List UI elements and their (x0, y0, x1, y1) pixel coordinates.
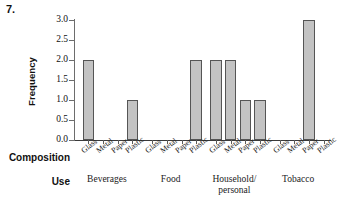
bar (127, 100, 138, 140)
y-tick-mark (69, 20, 75, 21)
use-group-label-line: Beverages (87, 174, 127, 184)
use-group-label-line: Food (161, 174, 181, 184)
y-tick-label: 2.0 (38, 55, 68, 65)
use-group-label: Household/personal (203, 174, 267, 196)
use-group-label: Tobacco (266, 174, 330, 185)
composition-label-plastic: Plastic (316, 136, 338, 155)
bar (83, 60, 94, 140)
y-tick-mark (69, 80, 75, 81)
bar (240, 100, 251, 140)
use-group-label: Food (139, 174, 203, 185)
y-tick-label: 0.5 (38, 115, 68, 125)
figure-container: 7. Frequency 0.00.51.01.52.02.53.0 Glass… (0, 0, 344, 208)
use-group-label-line: personal (218, 185, 250, 195)
y-tick-mark (69, 40, 75, 41)
bar (303, 20, 314, 140)
bar (225, 60, 236, 140)
y-tick-label: 2.5 (38, 35, 68, 45)
figure-number: 7. (6, 4, 15, 15)
use-group-label: Beverages (75, 174, 139, 185)
y-tick-mark (69, 120, 75, 121)
use-row-header: Use (0, 176, 70, 187)
y-tick-label: 1.0 (38, 95, 68, 105)
y-tick-label: 0.0 (38, 135, 68, 145)
y-tick-label: 3.0 (38, 15, 68, 25)
y-tick-mark (69, 60, 75, 61)
use-group-label-line: Tobacco (282, 174, 314, 184)
use-group-label-line: Household/ (212, 174, 256, 184)
y-tick-mark (69, 140, 75, 141)
y-tick-mark (69, 100, 75, 101)
y-tick-label: 1.5 (38, 75, 68, 85)
composition-row-header: Composition (0, 152, 70, 163)
bar (210, 60, 221, 140)
y-axis-title: Frequency (26, 42, 37, 122)
bar (254, 100, 265, 140)
bar (190, 60, 201, 140)
